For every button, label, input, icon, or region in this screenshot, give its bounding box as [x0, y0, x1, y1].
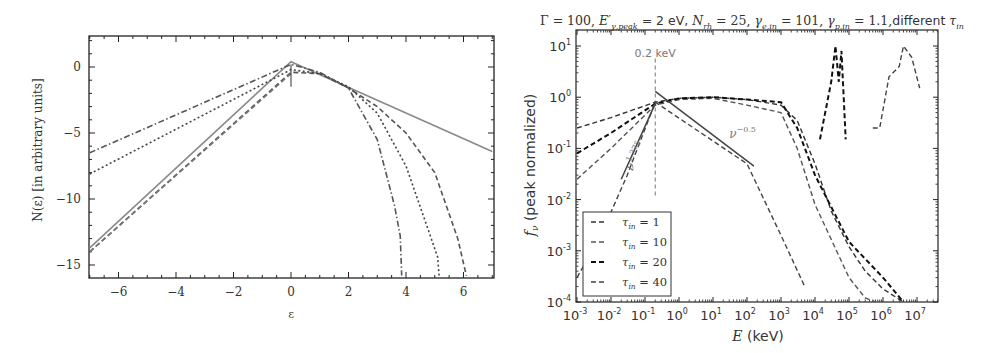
right-y-tick-label: 101	[549, 38, 571, 54]
legend-entry-label: τin = 1	[622, 215, 660, 231]
annotation-nu-minus-0.5: ν−0.5	[729, 125, 756, 141]
right-x-axis-label: E (keV)	[731, 328, 783, 344]
right-legend: τin = 1τin = 10τin = 20τin = 40	[583, 212, 671, 296]
left-chart: −6−4−202460−5−10−15 N(ε) [in arbitrary u…	[0, 0, 500, 353]
right-y-tick-label: 10-3	[546, 243, 571, 259]
right-x-tick-label: 107	[904, 307, 926, 323]
left-y-tick-label: 0	[73, 60, 81, 74]
left-x-tick-label: 2	[345, 285, 353, 299]
right-y-axis-label: fν (peak normalized)	[522, 94, 540, 237]
left-x-tick-label: 0	[287, 285, 295, 299]
right-chart-title: Γ = 100, E′γ,peak = 2 eV, Nrh = 25, γe,i…	[540, 13, 964, 31]
left-x-tick-label: 4	[402, 285, 410, 299]
left-x-axis-label: ε	[288, 308, 294, 321]
left-y-tick-label: −5	[63, 126, 81, 140]
right-x-tick-label: 102	[734, 307, 756, 323]
right-chart: Γ = 100, E′γ,peak = 2 eV, Nrh = 25, γe,i…	[500, 0, 993, 353]
left-x-tick-label: −2	[225, 285, 243, 299]
left-x-tick-label: 6	[460, 285, 468, 299]
right-x-tick-label: 10-3	[563, 307, 588, 323]
annotation-nu-1.375: ν1.375	[621, 139, 649, 173]
right-x-tick-label: 104	[802, 307, 824, 323]
right-x-tick-label: 106	[870, 307, 892, 323]
left-y-axis-label: N(ε) [in arbitrary units]	[31, 78, 45, 221]
left-x-tick-label: −4	[167, 285, 185, 299]
right-x-tick-label: 105	[836, 307, 858, 323]
right-chart-svg: Γ = 100, E′γ,peak = 2 eV, Nrh = 25, γe,i…	[500, 0, 993, 353]
annotation-0.2kev: 0.2 keV	[635, 47, 677, 60]
left-y-tick-label: −15	[56, 258, 81, 272]
right-x-tick-label: 10-2	[597, 307, 622, 323]
right-series-line	[820, 46, 846, 139]
left-series-line	[90, 62, 493, 248]
right-y-tick-label: 100	[549, 89, 571, 105]
right-x-tick-label: 101	[700, 307, 722, 323]
left-series-line	[90, 64, 402, 275]
left-series-line	[90, 72, 467, 275]
left-series-line	[90, 74, 291, 252]
right-y-tick-label: 10-2	[546, 192, 571, 208]
right-y-tick-label: 10-1	[546, 140, 571, 156]
right-x-tick-label: 103	[768, 307, 790, 323]
left-chart-svg: −6−4−202460−5−10−15 N(ε) [in arbitrary u…	[0, 0, 500, 353]
right-x-tick-label: 100	[666, 307, 688, 323]
left-y-tick-label: −10	[56, 192, 81, 206]
left-x-tick-label: −6	[110, 285, 128, 299]
right-series-line	[873, 46, 920, 128]
left-plot-area: −6−4−202460−5−10−15	[56, 36, 494, 299]
right-x-tick-label: 10-1	[631, 307, 656, 323]
